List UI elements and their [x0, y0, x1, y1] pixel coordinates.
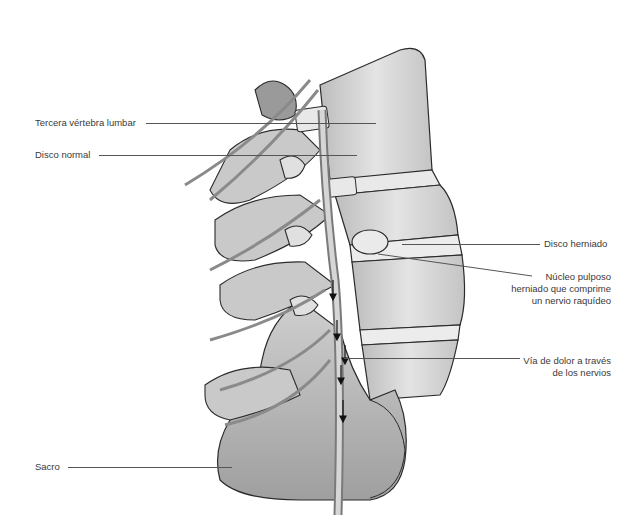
spine-diagram: Tercera vértebra lumbar Disco normal Dis…: [0, 0, 642, 523]
herniated-disc-shape: [352, 230, 388, 254]
label-third-lumbar-vertebra: Tercera vértebra lumbar: [35, 117, 136, 129]
leader-herniated-disc: [402, 244, 540, 245]
label-sacrum: Sacro: [35, 461, 60, 473]
label-herniated-nucleus: Núcleo pulposo herniado que comprime un …: [494, 271, 611, 307]
label-normal-disc: Disco normal: [35, 149, 90, 161]
leader-sacrum: [68, 467, 232, 468]
label-herniated-disc: Disco herniado: [544, 238, 607, 250]
leader-third-lumbar-vertebra: [146, 123, 376, 124]
leader-pain-pathway: [344, 358, 520, 359]
leader-normal-disc: [99, 155, 357, 156]
spine-illustration: [0, 0, 642, 523]
